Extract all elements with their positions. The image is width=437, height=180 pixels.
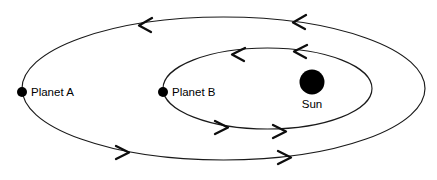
- sun-body: [300, 70, 325, 95]
- inner-orbit-arrow-bottom-right: [273, 125, 286, 138]
- planet-b-body: [158, 87, 168, 97]
- outer-orbit-arrow-bottom-left: [116, 146, 129, 159]
- planet-a-label: Planet A: [31, 86, 74, 98]
- inner-orbit-arrow-bottom-left: [215, 121, 228, 134]
- outer-orbit-arrow-top-left: [139, 18, 152, 32]
- sun-label: Sun: [302, 98, 322, 110]
- inner-orbit-arrow-top-right: [294, 45, 307, 58]
- orbit-diagram: Sun Planet A Planet B: [0, 0, 437, 180]
- planet-b-label: Planet B: [172, 86, 216, 98]
- orbit-diagram-canvas: Sun Planet A Planet B: [0, 0, 437, 180]
- outer-orbit-path: [22, 17, 425, 160]
- planet-a-body: [17, 87, 27, 97]
